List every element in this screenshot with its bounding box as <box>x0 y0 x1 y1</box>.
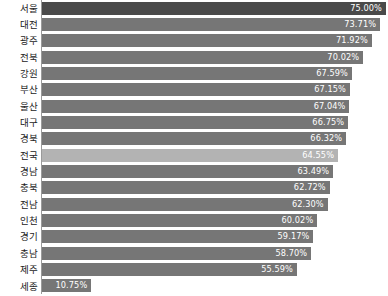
bar-row: 경기59.17% <box>0 229 388 245</box>
bar-value-label: 66.32% <box>310 134 342 143</box>
category-label: 부산 <box>0 84 38 95</box>
bar[interactable]: 59.17% <box>42 230 313 243</box>
bar-value-label: 60.02% <box>281 216 313 225</box>
bar[interactable]: 63.49% <box>42 165 333 178</box>
category-label: 광주 <box>0 35 38 46</box>
bar-row: 경남63.49% <box>0 163 388 179</box>
bar-value-label: 71.92% <box>336 36 368 45</box>
bar-value-label: 64.55% <box>302 151 334 160</box>
bar[interactable]: 66.75% <box>42 116 348 129</box>
bar[interactable]: 62.72% <box>42 181 330 194</box>
bar-value-label: 67.04% <box>314 102 346 111</box>
bar-value-label: 67.59% <box>316 69 348 78</box>
bar-row: 인천60.02% <box>0 212 388 228</box>
bar-value-label: 67.15% <box>314 85 346 94</box>
bar-value-label: 75.00% <box>350 4 382 13</box>
bar[interactable]: 67.15% <box>42 83 350 96</box>
bar-value-label: 58.70% <box>275 249 307 258</box>
bar-track: 62.30% <box>42 198 328 211</box>
bar[interactable]: 60.02% <box>42 214 317 227</box>
bar-row: 충남58.70% <box>0 245 388 261</box>
bar-track: 10.75% <box>42 279 91 292</box>
bar-value-label: 63.49% <box>297 167 329 176</box>
bar-value-label: 62.30% <box>292 200 324 209</box>
bar[interactable]: 66.32% <box>42 132 346 145</box>
category-label: 강원 <box>0 68 38 79</box>
bar-track: 64.55% <box>42 149 338 162</box>
bar-row: 대구66.75% <box>0 114 388 130</box>
bar-row: 울산67.04% <box>0 98 388 114</box>
bar-track: 66.75% <box>42 116 348 129</box>
bar-track: 73.71% <box>42 18 380 31</box>
category-label: 경기 <box>0 231 38 242</box>
bar[interactable]: 58.70% <box>42 247 311 260</box>
category-label: 전국 <box>0 150 38 161</box>
bar-row: 전남62.30% <box>0 196 388 212</box>
category-label: 경북 <box>0 133 38 144</box>
category-label: 전남 <box>0 199 38 210</box>
bar[interactable]: 67.04% <box>42 100 349 113</box>
bar-value-label: 59.17% <box>278 232 310 241</box>
category-label: 경남 <box>0 166 38 177</box>
bar[interactable]: 10.75% <box>42 279 91 292</box>
bar-track: 59.17% <box>42 230 313 243</box>
bar[interactable]: 73.71% <box>42 18 380 31</box>
bar-value-label: 10.75% <box>55 281 87 290</box>
category-label: 세종 <box>0 281 38 292</box>
bar-value-label: 70.02% <box>327 53 359 62</box>
bar-track: 71.92% <box>42 34 372 47</box>
bar[interactable]: 62.30% <box>42 198 328 211</box>
bar[interactable]: 67.59% <box>42 67 352 80</box>
bar[interactable]: 75.00% <box>42 2 386 15</box>
category-label: 대구 <box>0 117 38 128</box>
category-label: 충북 <box>0 182 38 193</box>
bar[interactable]: 71.92% <box>42 34 372 47</box>
bar-row: 부산67.15% <box>0 82 388 98</box>
category-label: 울산 <box>0 101 38 112</box>
bar-track: 55.59% <box>42 263 297 276</box>
bar-row: 제주55.59% <box>0 262 388 278</box>
bar-track: 66.32% <box>42 132 346 145</box>
bar-row: 서울75.00% <box>0 0 388 16</box>
bar-row: 세종10.75% <box>0 278 388 294</box>
bar-track: 67.04% <box>42 100 349 113</box>
bar-value-label: 73.71% <box>344 20 376 29</box>
category-label: 전북 <box>0 52 38 63</box>
bar[interactable]: 55.59% <box>42 263 297 276</box>
bar-row: 전국64.55% <box>0 147 388 163</box>
horizontal-bar-chart: 서울75.00%대전73.71%광주71.92%전북70.02%강원67.59%… <box>0 0 388 296</box>
category-label: 제주 <box>0 264 38 275</box>
bar-track: 60.02% <box>42 214 317 227</box>
bar-value-label: 66.75% <box>312 118 344 127</box>
category-label: 대전 <box>0 19 38 30</box>
bar-value-label: 55.59% <box>261 265 293 274</box>
bar-track: 67.59% <box>42 67 352 80</box>
bar-track: 67.15% <box>42 83 350 96</box>
bar-rows-container: 서울75.00%대전73.71%광주71.92%전북70.02%강원67.59%… <box>0 0 388 294</box>
bar-row: 경북66.32% <box>0 131 388 147</box>
category-label: 충남 <box>0 248 38 259</box>
category-label: 서울 <box>0 3 38 14</box>
bar-track: 70.02% <box>42 51 363 64</box>
category-label: 인천 <box>0 215 38 226</box>
bar[interactable]: 70.02% <box>42 51 363 64</box>
bar-track: 63.49% <box>42 165 333 178</box>
bar-row: 강원67.59% <box>0 65 388 81</box>
bar[interactable]: 64.55% <box>42 149 338 162</box>
bar-row: 대전73.71% <box>0 16 388 32</box>
bar-track: 58.70% <box>42 247 311 260</box>
bar-value-label: 62.72% <box>294 183 326 192</box>
bar-track: 75.00% <box>42 2 386 15</box>
bar-row: 전북70.02% <box>0 49 388 65</box>
bar-row: 충북62.72% <box>0 180 388 196</box>
bar-track: 62.72% <box>42 181 330 194</box>
bar-row: 광주71.92% <box>0 33 388 49</box>
